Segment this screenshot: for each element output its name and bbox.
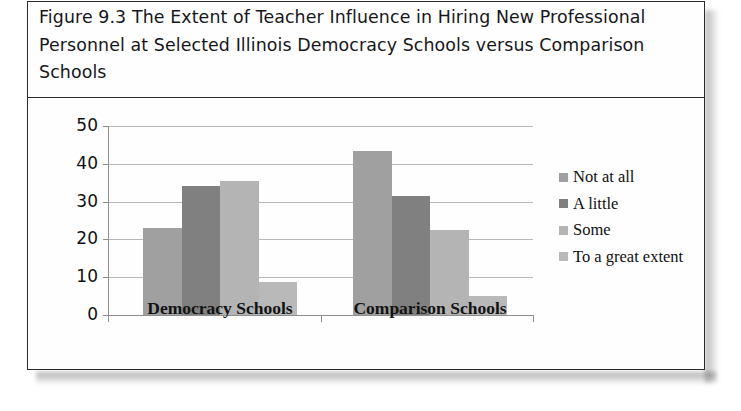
y-axis-tick-label: 50 bbox=[64, 117, 98, 134]
figure-drop-shadow-bottom bbox=[36, 372, 716, 385]
legend-item: Some bbox=[559, 217, 709, 244]
y-axis-tick-label: 40 bbox=[64, 155, 98, 172]
legend-swatch-icon bbox=[559, 199, 568, 208]
y-axis-tick-label: 20 bbox=[64, 230, 98, 247]
bar-chart: 01020304050 Democracy SchoolsComparison … bbox=[28, 98, 704, 369]
x-axis-category-label: Comparison Schools bbox=[330, 298, 530, 319]
category-tick bbox=[321, 315, 322, 322]
figure-caption: Figure 9.3 The Extent of Teacher Influen… bbox=[39, 4, 689, 87]
legend-item: To a great extent bbox=[559, 244, 709, 271]
gridline bbox=[108, 126, 533, 127]
y-axis-tick-label: 10 bbox=[64, 268, 98, 285]
legend-item-label: A little bbox=[573, 194, 618, 214]
bar bbox=[220, 181, 259, 315]
y-axis-tick-label: 0 bbox=[64, 306, 98, 323]
legend-item-label: Not at all bbox=[573, 167, 634, 187]
figure-screenshot: Figure 9.3 The Extent of Teacher Influen… bbox=[0, 0, 741, 411]
bar bbox=[182, 186, 221, 315]
legend-item: A little bbox=[559, 191, 709, 218]
legend-swatch-icon bbox=[559, 252, 568, 261]
gridline bbox=[108, 164, 533, 165]
plot-area bbox=[108, 126, 533, 315]
bar bbox=[353, 151, 392, 315]
chart-legend: Not at allA littleSomeTo a great extent bbox=[559, 164, 709, 270]
gridline bbox=[108, 202, 533, 203]
legend-item-label: Some bbox=[573, 220, 611, 240]
x-axis-category-label: Democracy Schools bbox=[120, 298, 320, 319]
category-tick bbox=[108, 315, 109, 322]
legend-swatch-icon bbox=[559, 226, 568, 235]
y-axis-tick-label: 30 bbox=[64, 193, 98, 210]
figure-box: Figure 9.3 The Extent of Teacher Influen… bbox=[27, 1, 705, 370]
legend-swatch-icon bbox=[559, 173, 568, 182]
legend-item: Not at all bbox=[559, 164, 709, 191]
legend-item-label: To a great extent bbox=[573, 247, 683, 267]
y-axis-line bbox=[108, 126, 109, 316]
category-tick bbox=[533, 315, 534, 322]
